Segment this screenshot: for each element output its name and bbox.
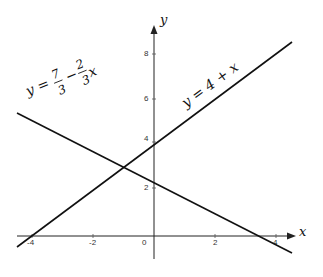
svg-text:3: 3 [56,82,69,98]
y-tick-label: 6 [144,94,149,103]
y-tick-label: 2 [144,183,149,192]
y-axis-label: y [159,12,168,27]
x-axis-label: x [299,224,307,239]
x-tick-label: 0 [142,238,147,247]
x-tick-label: -2 [89,238,97,247]
y-tick-label: 8 [144,49,149,58]
y-tick-label: 4 [144,134,149,143]
x-tick-label: 2 [213,238,218,247]
y-axis-arrow-icon [151,25,158,34]
svg-text:y =: y = [22,75,51,99]
svg-text:7: 7 [49,66,62,82]
chart-canvas: x y -4 -2 0 2 4 2 4 6 8 y = 4 + x y = 7 … [0,0,323,277]
x-axis-arrow-icon [287,233,296,240]
line2-label: y = 7 3 − 2 3 x [21,53,101,109]
